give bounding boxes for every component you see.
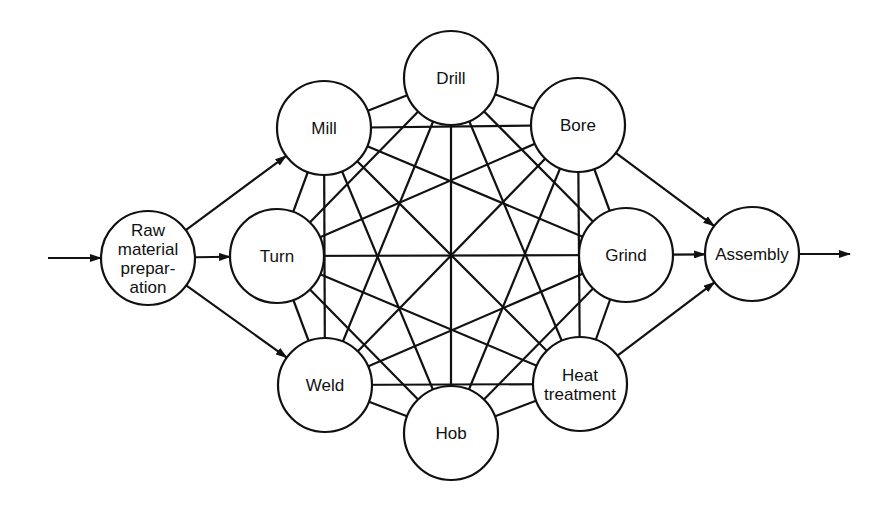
flow-arrow-raw-to-turn: [195, 257, 230, 258]
node-label: Raw: [131, 221, 166, 240]
node-mill: Mill: [277, 81, 371, 175]
node-heat: Heattreatment: [533, 337, 627, 431]
node-turn: Turn: [230, 209, 324, 303]
process-network-diagram: Rawmaterialprepar-ationMillDrillBoreGrin…: [0, 0, 891, 514]
node-label: ation: [130, 278, 167, 297]
node-weld: Weld: [278, 338, 372, 432]
node-label: Drill: [436, 69, 465, 88]
node-label: treatment: [544, 385, 616, 404]
node-label: Hob: [435, 424, 466, 443]
node-grind: Grind: [579, 208, 673, 302]
node-bore: Bore: [531, 78, 625, 172]
node-label: Heat: [562, 366, 598, 385]
node-drill: Drill: [404, 31, 498, 125]
node-label: Weld: [306, 376, 344, 395]
node-label: Mill: [311, 119, 337, 138]
node-raw: Rawmaterialprepar-ation: [101, 211, 195, 305]
node-label: Turn: [260, 247, 294, 266]
node-label: Grind: [605, 246, 647, 265]
node-label: prepar-: [121, 259, 176, 278]
node-hob: Hob: [404, 386, 498, 480]
mesh-edge-grind-turn: [277, 255, 626, 256]
node-label: Bore: [560, 116, 596, 135]
node-label: material: [118, 240, 178, 259]
node-assembly: Assembly: [705, 207, 799, 301]
node-label: Assembly: [715, 245, 789, 264]
